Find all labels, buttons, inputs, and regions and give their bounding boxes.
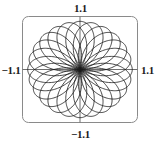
rose-petal — [80, 32, 120, 69]
axis-label-top: 1.1 — [0, 3, 161, 14]
axis-label-right: 1.1 — [139, 65, 161, 76]
rose-petal — [80, 70, 120, 107]
rose-petal — [40, 32, 80, 69]
plot-canvas — [0, 0, 161, 147]
rose-petal — [40, 70, 80, 107]
axis-label-bottom: −1.1 — [0, 129, 161, 140]
axis-label-left: −1.1 — [0, 65, 22, 76]
figure-container: 1.1 −1.1 −1.1 1.1 — [0, 0, 161, 147]
